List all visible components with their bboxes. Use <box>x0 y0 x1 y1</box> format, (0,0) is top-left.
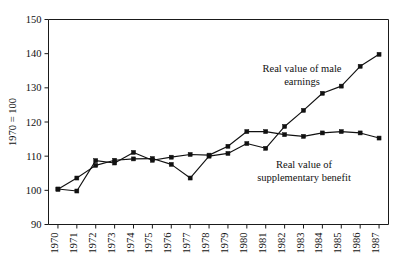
data-point <box>302 108 306 112</box>
data-point <box>320 131 324 135</box>
data-point <box>188 152 192 156</box>
data-point <box>75 189 79 193</box>
x-tick-label: 1984 <box>313 232 324 254</box>
y-tick-label: 110 <box>26 151 41 162</box>
data-point <box>264 146 268 150</box>
annotation-supplementary-benefit-line2: supplementary benefit <box>257 172 351 183</box>
x-tick-label: 1970 <box>49 233 60 254</box>
data-point <box>245 142 249 146</box>
data-point <box>320 91 324 95</box>
data-point <box>358 64 362 68</box>
data-point <box>169 162 173 166</box>
data-point <box>302 134 306 138</box>
data-point <box>358 131 362 135</box>
x-tick-label: 1971 <box>68 233 79 254</box>
x-tick-label: 1983 <box>295 233 306 254</box>
data-point <box>339 84 343 88</box>
x-tick-label: 1980 <box>238 232 249 253</box>
data-point <box>188 176 192 180</box>
chart-page: 1970 = 100 90100110120130140150 19701971… <box>0 0 409 280</box>
data-point <box>207 153 211 157</box>
x-tick-label: 1977 <box>181 233 192 254</box>
y-tick-label: 90 <box>31 219 42 230</box>
x-tick-label: 1986 <box>351 233 362 254</box>
x-tick-label: 1979 <box>219 233 230 254</box>
x-tick-label: 1974 <box>125 232 136 254</box>
data-point <box>339 130 343 134</box>
data-point <box>113 161 117 165</box>
data-point <box>132 157 136 161</box>
y-axis-title: 1970 = 100 <box>7 98 18 146</box>
data-point <box>226 151 230 155</box>
data-point <box>377 52 381 56</box>
x-tick-label: 1985 <box>332 233 343 254</box>
data-point <box>245 130 249 134</box>
data-point <box>132 150 136 154</box>
data-point <box>94 163 98 167</box>
annotation-male-earnings-line2: earnings <box>284 76 320 87</box>
x-tick-label: 1987 <box>370 233 381 254</box>
x-tick-label: 1975 <box>143 233 154 254</box>
data-point <box>169 155 173 159</box>
y-axis-title-label: 1970 = 100 <box>7 98 18 146</box>
x-tick-label: 1981 <box>257 233 268 254</box>
data-point <box>56 187 60 191</box>
y-tick-label: 140 <box>26 48 42 59</box>
annotation-male-earnings-line1: Real value of male <box>262 63 341 74</box>
x-tick-label: 1976 <box>162 233 173 254</box>
x-tick-label: 1982 <box>276 233 287 254</box>
data-point <box>377 136 381 140</box>
data-point <box>150 158 154 162</box>
data-point <box>94 159 98 163</box>
y-tick-label: 130 <box>26 82 42 93</box>
data-point <box>283 133 287 137</box>
data-point <box>226 144 230 148</box>
x-tick-label: 1973 <box>106 233 117 254</box>
y-tick-label: 120 <box>26 117 42 128</box>
y-tick-label: 150 <box>26 14 42 25</box>
annotation-supplementary-benefit-line1: Real value of <box>276 159 332 170</box>
data-point <box>264 130 268 134</box>
y-tick-label: 100 <box>26 185 42 196</box>
x-tick-label: 1972 <box>87 233 98 254</box>
data-point <box>75 176 79 180</box>
line-chart: 1970 = 100 90100110120130140150 19701971… <box>0 0 409 280</box>
data-point <box>283 124 287 128</box>
x-tick-label: 1978 <box>200 233 211 254</box>
